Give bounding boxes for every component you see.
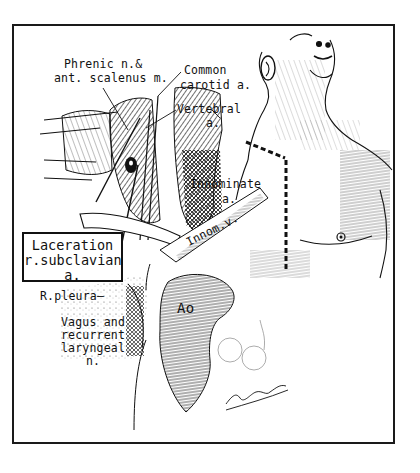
aorta: [160, 274, 266, 412]
label-text: R.pleura—: [40, 289, 104, 303]
label-innominate: Innominate: [190, 178, 261, 191]
label-carotid-artery: carotid a.: [180, 79, 251, 92]
label-text: Phrenic n.&: [64, 57, 142, 71]
label-laceration-box: Laceration r.subclavian a.: [22, 232, 123, 282]
label-right-pleura: R.pleura—: [40, 290, 104, 303]
label-text: Common: [184, 63, 227, 77]
label-common-carotid: Common: [184, 64, 227, 77]
label-text: a.: [222, 192, 236, 206]
label-text: a.: [206, 116, 220, 130]
label-vertebral-a: a.: [206, 117, 220, 130]
label-text: Innominate: [190, 177, 261, 191]
label-vertebral: Vertebral: [177, 103, 241, 116]
label-text: r.subclavian: [24, 253, 121, 268]
label-aorta: Ao: [177, 302, 194, 315]
label-text: carotid a.: [180, 78, 251, 92]
label-text: Ao: [177, 300, 194, 316]
label-text: Vertebral: [177, 102, 241, 116]
label-vagus-nerve: Vagus and recurrent laryngeal n.: [52, 316, 134, 368]
label-innominate-a: a.: [222, 193, 236, 206]
label-phrenic-nerve: Phrenic n.&: [64, 58, 142, 71]
label-text: ant. scalenus m.: [54, 71, 168, 85]
label-text: n.: [52, 355, 134, 368]
label-text: a.: [24, 268, 121, 283]
label-text: Laceration: [24, 238, 121, 253]
artist-signature: [226, 385, 288, 410]
label-anterior-scalenus: ant. scalenus m.: [54, 72, 168, 85]
